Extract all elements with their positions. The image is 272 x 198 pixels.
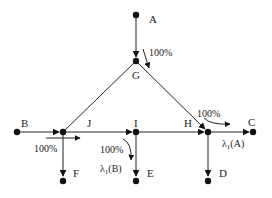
node-c[interactable]	[250, 129, 256, 135]
label-j: J	[87, 117, 92, 129]
node-i[interactable]	[133, 129, 139, 135]
label-a: A	[149, 13, 157, 25]
label-f: F	[73, 167, 79, 179]
node-j[interactable]	[60, 129, 66, 135]
node-h[interactable]	[205, 129, 211, 135]
node-labels: A G B J I H C F E D	[21, 13, 255, 179]
node-e[interactable]	[133, 178, 139, 184]
label-c: C	[248, 116, 255, 128]
label-g: G	[132, 69, 140, 81]
annotations: 100% 100% 100% 100% λ1(B) λ1(A)	[34, 47, 244, 176]
node-a[interactable]	[133, 12, 139, 18]
node-d[interactable]	[205, 178, 211, 184]
flow-indicators	[46, 49, 230, 160]
pct-b-j: 100%	[34, 143, 57, 154]
node-f[interactable]	[60, 178, 66, 184]
label-e: E	[147, 167, 154, 179]
edge-g-j	[63, 61, 136, 132]
diagram-canvas: A G B J I H C F E D 100% 100% 100% 100% …	[0, 0, 272, 198]
label-b: B	[21, 117, 28, 129]
flow-diagram: A G B J I H C F E D 100% 100% 100% 100% …	[0, 0, 272, 198]
pct-a-g: 100%	[149, 47, 172, 58]
nodes	[14, 12, 256, 184]
label-h: H	[184, 117, 192, 129]
flow-arrow-i-turn	[123, 139, 131, 160]
pct-h-turn: 100%	[197, 108, 220, 119]
node-b[interactable]	[14, 129, 20, 135]
node-g[interactable]	[133, 58, 139, 64]
lambda-a-label: λ1(A)	[222, 138, 244, 151]
edge-g-h	[136, 61, 205, 129]
label-i: I	[134, 117, 138, 129]
pct-i-turn: 100%	[100, 144, 123, 155]
label-d: D	[219, 167, 227, 179]
lambda-b-label: λ1(B)	[100, 163, 122, 176]
